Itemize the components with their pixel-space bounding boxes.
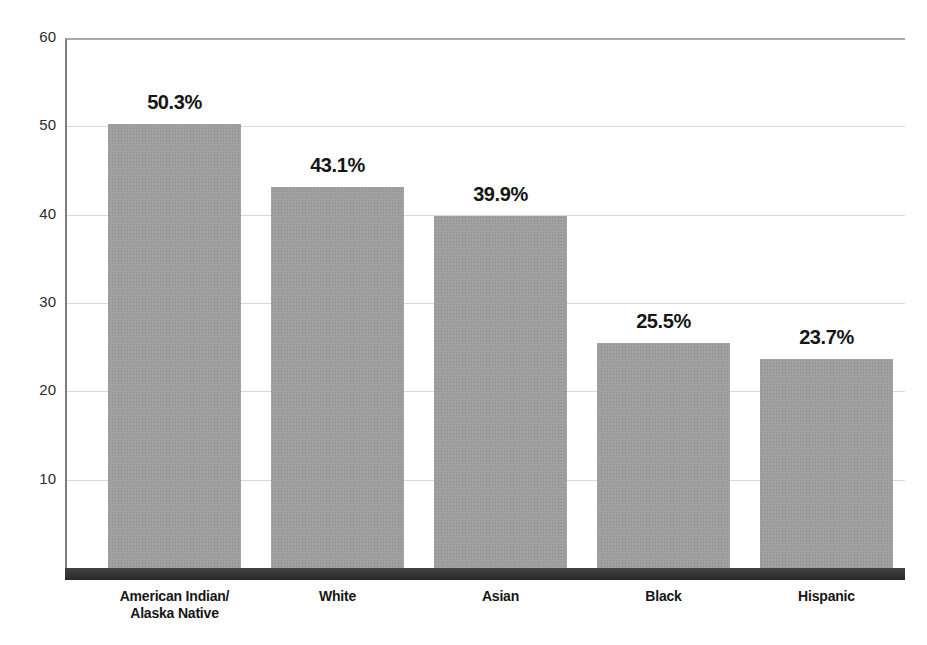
y-tick-60: 60 <box>16 28 56 46</box>
plot-area: 50.3%43.1%39.9%25.5%23.7% <box>65 38 905 568</box>
x-axis-baseline-band <box>65 568 905 580</box>
category-label-white: White <box>253 588 423 605</box>
y-tick-20: 20 <box>16 381 56 399</box>
category-label-asian: Asian <box>416 588 586 605</box>
bar-asian <box>434 216 567 568</box>
bar-chart-figure: 50.3%43.1%39.9%25.5%23.7% 102030405060 A… <box>0 0 927 645</box>
y-tick-40: 40 <box>16 205 56 223</box>
category-label-american-indian: American Indian/ Alaska Native <box>90 588 260 622</box>
bar-value-label-asian: 39.9% <box>434 182 567 206</box>
bar-value-label-american-indian: 50.3% <box>108 90 241 114</box>
bar-hispanic <box>760 359 893 568</box>
y-tick-50: 50 <box>16 116 56 134</box>
bar-value-label-hispanic: 23.7% <box>760 325 893 349</box>
bar-value-label-black: 25.5% <box>597 309 730 333</box>
bar-white <box>271 187 404 568</box>
bar-american-indian <box>108 124 241 568</box>
bar-value-label-white: 43.1% <box>271 153 404 177</box>
y-tick-10: 10 <box>16 470 56 488</box>
category-label-black: Black <box>579 588 749 605</box>
y-tick-30: 30 <box>16 293 56 311</box>
category-label-hispanic: Hispanic <box>742 588 912 605</box>
bar-black <box>597 343 730 568</box>
